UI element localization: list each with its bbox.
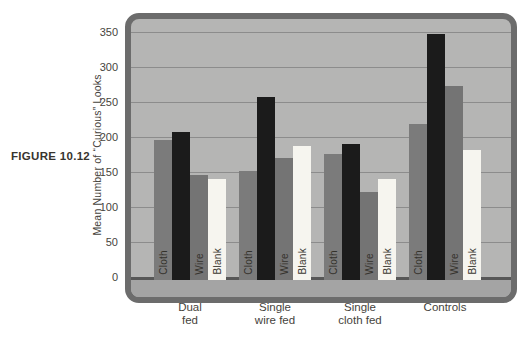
bar: Cloth [239, 171, 257, 280]
bar: Wire [360, 192, 378, 280]
bar: Wire [190, 175, 208, 280]
bar: Wire [445, 86, 463, 280]
bar-label: Wire [449, 253, 460, 275]
bar-label: Cloth [243, 250, 254, 275]
bar-label: Cloth [158, 250, 169, 275]
bar: Blank [463, 150, 481, 280]
bar: Cloth [154, 140, 172, 280]
y-tick-label: 100 [82, 201, 118, 213]
bar [427, 34, 445, 280]
group-label: Controls [395, 301, 495, 314]
bar [172, 132, 190, 280]
bar-label: Wire [194, 253, 205, 275]
chart-frame: ClothWireBlankClothWireBlankClothWireBla… [125, 13, 517, 303]
gridline [131, 32, 511, 33]
y-tick-label: 300 [82, 61, 118, 73]
bar [257, 97, 275, 280]
y-tick-label: 250 [82, 96, 118, 108]
page: FIGURE 10.12 Mean Number of “Curious” Lo… [0, 0, 527, 337]
y-tick-label: 350 [82, 26, 118, 38]
bar: Blank [378, 179, 396, 280]
bar-label: Wire [364, 253, 375, 275]
bar: Cloth [409, 124, 427, 280]
bar-label: Blank [382, 248, 393, 275]
bar-label: Blank [212, 248, 223, 275]
y-tick-label: 150 [82, 166, 118, 178]
y-tick-label: 200 [82, 131, 118, 143]
gridline [131, 67, 511, 68]
bar: Blank [208, 179, 226, 281]
figure-label: FIGURE 10.12 [11, 150, 91, 162]
y-tick-label: 50 [82, 236, 118, 248]
bar: Wire [275, 158, 293, 280]
floor-strip [131, 280, 511, 297]
bar: Blank [293, 146, 311, 280]
bar: Cloth [324, 154, 342, 280]
bar [342, 144, 360, 280]
bar-label: Blank [467, 248, 478, 275]
bar-label: Cloth [413, 250, 424, 275]
bar-label: Cloth [328, 250, 339, 275]
bar-label: Wire [279, 253, 290, 275]
bar-label: Blank [297, 248, 308, 275]
y-tick-label: 0 [82, 271, 118, 283]
